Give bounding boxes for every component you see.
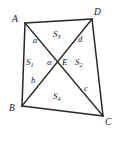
vertex-label-C: C	[105, 118, 111, 128]
figure-canvas	[0, 0, 120, 141]
edge-DC	[92, 19, 103, 116]
region-label-S1: S1	[26, 58, 34, 68]
edge-AD	[25, 19, 92, 23]
vertex-label-A: A	[12, 15, 18, 25]
segment-label-d: d	[78, 35, 82, 44]
edge-BA	[22, 23, 25, 106]
region-subscript-S2: 2	[80, 62, 83, 68]
intersection-label-E: E	[62, 58, 68, 67]
segment-label-b: b	[31, 76, 35, 85]
region-label-S3: S3	[53, 30, 61, 40]
vertex-label-D: D	[94, 8, 101, 18]
region-subscript-S4: 4	[58, 96, 61, 102]
angle-label-alpha: α	[47, 58, 51, 67]
edge-CB	[22, 106, 103, 116]
vertex-label-B: B	[9, 104, 15, 114]
segment-label-c: c	[84, 84, 88, 93]
segment-label-a: a	[33, 36, 37, 45]
region-subscript-S1: 1	[31, 62, 34, 68]
region-label-S4: S4	[53, 92, 61, 102]
region-label-S2: S2	[75, 58, 83, 68]
geometry-figure: A D C B E a d b c α S1 S2 S3 S4	[0, 0, 120, 141]
quadrilateral-diagonals	[22, 19, 103, 116]
region-subscript-S3: 3	[58, 34, 61, 40]
